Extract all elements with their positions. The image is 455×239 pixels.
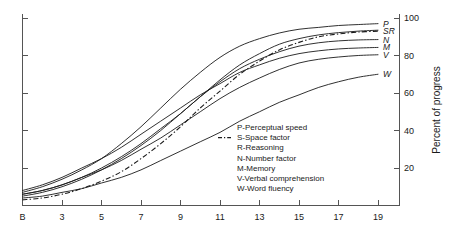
curve-m (23, 47, 379, 190)
bottom-axis (23, 200, 401, 206)
legend-item-p: P-Perceptual speed (237, 123, 307, 132)
legend-item-n: N-Number factor (237, 154, 296, 163)
curve-end-label-w: W (383, 69, 392, 79)
legend-item-v: V-Verbal comprehension (237, 174, 324, 183)
x-tick-label: 5 (99, 212, 104, 222)
left-axis (23, 14, 29, 206)
curve-end-labels: PSRNMVW (383, 19, 395, 80)
legend-item-m: M-Memory (237, 164, 275, 173)
x-tick-label: 7 (138, 212, 143, 222)
data-curves (23, 24, 379, 200)
curve-s (23, 31, 379, 200)
right-axis (394, 14, 400, 206)
y-tick-label: 100 (404, 13, 419, 23)
x-tick-label: 19 (373, 212, 383, 222)
y-tick-label: 20 (404, 163, 414, 173)
bottom-axis-ticks (23, 200, 379, 206)
left-axis-ticks (23, 18, 29, 168)
legend-item-s: S-Space factor (237, 133, 290, 142)
y-axis-tick-labels: 20406080100 (404, 13, 419, 173)
x-tick-label: 11 (215, 212, 224, 222)
legend-item-r: R-Reasoning (237, 143, 284, 152)
chart-legend: P-Perceptual speedS-Space factorR-Reason… (218, 123, 324, 193)
y-tick-label: 60 (404, 88, 414, 98)
x-tick-label: 3 (59, 212, 64, 222)
growth-curve-chart: B35791113151719 20406080100 PSRNMVW P-Pe… (0, 0, 455, 239)
x-tick-label: B (19, 212, 25, 222)
y-tick-label: 40 (404, 126, 414, 136)
x-axis-tick-labels: B35791113151719 (19, 212, 383, 222)
x-tick-label: 17 (333, 212, 343, 222)
x-tick-label: 9 (178, 212, 183, 222)
x-tick-label: 13 (254, 212, 264, 222)
legend-item-w: W-Word fluency (237, 184, 294, 193)
x-tick-label: 15 (294, 212, 304, 222)
y-axis-title: Percent of progress (431, 66, 442, 153)
chart-canvas: B35791113151719 20406080100 PSRNMVW P-Pe… (0, 0, 455, 239)
y-tick-label: 80 (404, 51, 414, 61)
